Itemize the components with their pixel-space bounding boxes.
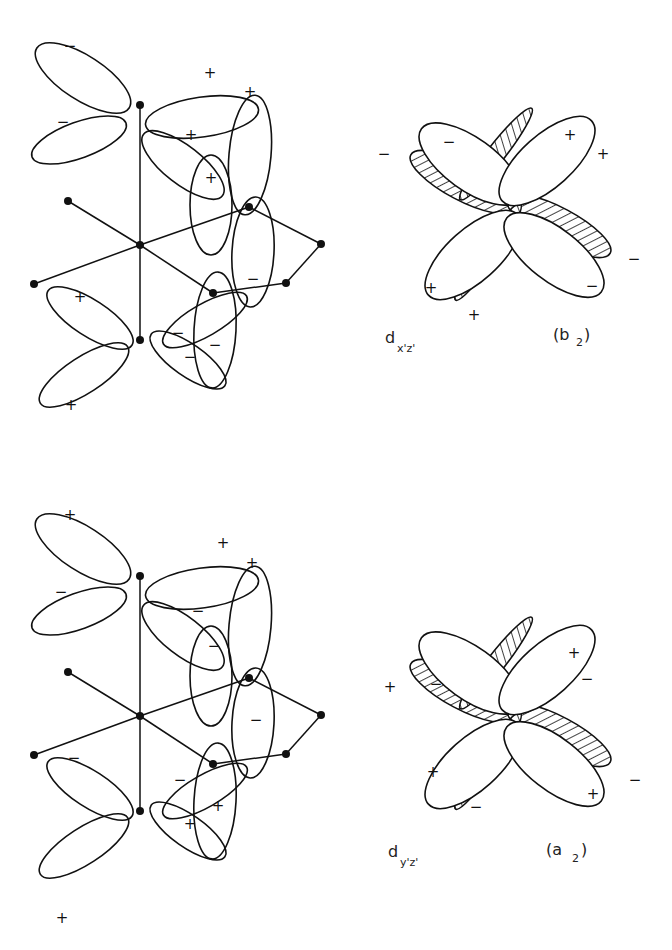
svg-text:x'z': x'z' <box>397 342 415 355</box>
svg-text:−: − <box>172 324 185 342</box>
svg-text:+: + <box>74 288 87 306</box>
svg-text:−: − <box>209 336 222 354</box>
orbital-diagram: − − + + + + + − − − − + − − + + + + − − … <box>0 0 672 950</box>
svg-text:+: + <box>64 506 77 524</box>
svg-text:−: − <box>378 145 391 163</box>
svg-text:+: + <box>185 126 198 144</box>
svg-text:+: + <box>468 306 481 324</box>
svg-text:+: + <box>246 554 259 572</box>
svg-text:−: − <box>208 637 221 655</box>
svg-text:−: − <box>629 771 642 789</box>
svg-text:−: − <box>470 798 483 816</box>
svg-text:d: d <box>388 842 398 861</box>
svg-text:+: + <box>184 815 197 833</box>
svg-text:+: + <box>65 396 78 414</box>
svg-text:+: + <box>212 797 225 815</box>
svg-text:+: + <box>427 763 440 781</box>
svg-text:−: − <box>174 771 187 789</box>
svg-text:(b: (b <box>553 325 569 344</box>
svg-text:−: − <box>586 277 599 295</box>
svg-text:−: − <box>628 250 641 268</box>
svg-text:+: + <box>244 83 257 101</box>
svg-text:): ) <box>581 840 587 859</box>
svg-text:+: + <box>587 785 600 803</box>
label-bottom: d y'z' (a 2 ) <box>388 840 587 869</box>
svg-text:y'z': y'z' <box>400 856 418 869</box>
svg-text:−: − <box>192 602 205 620</box>
svg-text:+: + <box>217 534 230 552</box>
molecule-top: − − + + + + + − − − − + <box>25 30 325 419</box>
svg-text:+: + <box>564 126 577 144</box>
svg-text:−: − <box>247 270 260 288</box>
svg-text:−: − <box>443 133 456 151</box>
svg-text:+: + <box>56 909 69 927</box>
label-top: d x'z' (b 2 ) <box>385 325 590 355</box>
svg-text:−: − <box>430 675 443 693</box>
svg-text:2: 2 <box>576 336 583 349</box>
svg-text:+: + <box>597 145 610 163</box>
molecule-bottom: + − + + − − − − − + + + <box>25 501 325 927</box>
svg-text:−: − <box>64 37 77 55</box>
svg-text:+: + <box>205 169 218 187</box>
svg-text:+: + <box>425 279 438 297</box>
svg-text:+: + <box>204 64 217 82</box>
svg-text:−: − <box>581 670 594 688</box>
svg-text:d: d <box>385 328 395 347</box>
orbital-bottom: + − + − + − − + <box>384 611 642 824</box>
svg-text:+: + <box>568 644 581 662</box>
orbital-top: − − + + + + − − <box>378 102 641 324</box>
svg-text:+: + <box>384 678 397 696</box>
svg-text:−: − <box>184 348 197 366</box>
svg-text:−: − <box>57 113 70 131</box>
svg-text:−: − <box>55 583 68 601</box>
svg-text:2: 2 <box>572 852 579 865</box>
svg-text:−: − <box>250 711 263 729</box>
svg-text:): ) <box>584 325 590 344</box>
svg-text:−: − <box>68 749 81 767</box>
svg-text:(a: (a <box>546 840 562 859</box>
